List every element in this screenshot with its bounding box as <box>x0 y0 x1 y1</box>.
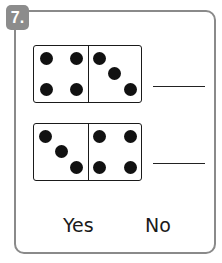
pip <box>124 130 137 143</box>
pip <box>124 161 137 174</box>
domino-1 <box>33 45 142 103</box>
domino-2 <box>33 123 142 181</box>
question-number-badge: 7. <box>6 5 29 30</box>
pip <box>70 161 83 174</box>
domino-2-right-half-four <box>87 124 141 180</box>
pip <box>108 67 121 80</box>
domino-1-left-half-four <box>34 46 89 102</box>
domino-2-left-half-three <box>34 124 89 180</box>
pip <box>93 52 106 65</box>
answer-line-2[interactable] <box>153 163 205 164</box>
pip <box>70 52 83 65</box>
pip <box>124 83 137 96</box>
domino-1-right-half-three <box>87 46 141 102</box>
pip <box>39 130 52 143</box>
choice-yes[interactable]: Yes <box>63 214 94 236</box>
pip <box>93 161 106 174</box>
pip <box>55 145 68 158</box>
answer-line-1[interactable] <box>153 86 205 87</box>
pip <box>70 83 83 96</box>
pip <box>40 52 53 65</box>
pip <box>93 130 106 143</box>
choice-no[interactable]: No <box>145 214 171 236</box>
pip <box>40 83 53 96</box>
